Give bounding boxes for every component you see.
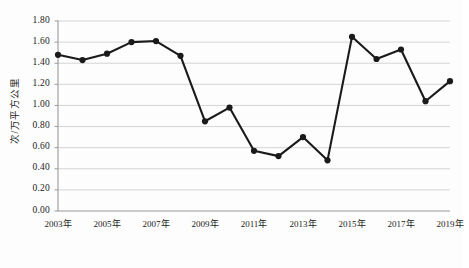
data-point-marker <box>153 38 159 44</box>
y-axis-tick-label: 1.00 <box>16 99 50 109</box>
x-axis-tick-label: 2013年 <box>280 217 326 230</box>
data-point-marker <box>79 57 85 63</box>
x-axis-tick-label: 2003年 <box>35 217 81 230</box>
data-point-marker <box>104 51 110 57</box>
x-axis-tick-label: 2019年 <box>427 217 469 230</box>
y-axis-tick-label: 0.80 <box>16 120 50 130</box>
data-point-marker <box>324 157 330 163</box>
data-point-marker <box>349 34 355 40</box>
y-axis-tick-label: 0.40 <box>16 162 50 172</box>
y-axis-tick-label: 0.00 <box>16 205 50 215</box>
y-axis-tick-label: 0.20 <box>16 183 50 193</box>
data-point-marker <box>226 104 232 110</box>
data-series-line <box>58 37 450 161</box>
data-point-marker <box>251 148 257 154</box>
x-axis-tick-label: 2009年 <box>182 217 228 230</box>
y-axis-title: 次/万平方公里 <box>7 74 21 148</box>
data-point-marker <box>177 53 183 59</box>
y-axis-tick-label: 1.80 <box>16 15 50 25</box>
x-axis-tick-label: 2007年 <box>133 217 179 230</box>
data-point-marker <box>300 134 306 140</box>
data-point-marker <box>202 118 208 124</box>
y-axis-tick-label: 1.60 <box>16 36 50 46</box>
x-axis-tick-label: 2005年 <box>84 217 130 230</box>
data-point-marker <box>55 52 61 58</box>
x-axis-tick-label: 2011年 <box>231 217 277 230</box>
data-point-marker <box>422 98 428 104</box>
x-axis-tick-label: 2017年 <box>378 217 424 230</box>
y-axis-tick-label: 0.60 <box>16 141 50 151</box>
data-point-marker <box>373 56 379 62</box>
x-axis-tick-label: 2015年 <box>329 217 375 230</box>
data-point-marker <box>275 153 281 159</box>
series-polyline <box>58 37 450 161</box>
data-point-marker <box>447 78 453 84</box>
y-axis-tick-label: 1.20 <box>16 78 50 88</box>
axis-lines <box>55 21 59 212</box>
data-point-marker <box>398 46 404 52</box>
y-axis-tick-label: 1.40 <box>16 57 50 67</box>
data-point-marker <box>128 39 134 45</box>
